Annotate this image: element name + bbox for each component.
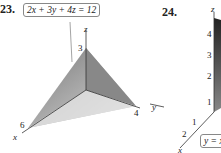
figure-23-x-intercept: 6 — [20, 120, 25, 130]
figure-23-z-intercept: 3 — [78, 43, 83, 53]
figure-24-equation: y = x — [200, 134, 221, 148]
figure-23-x-axis-label: x — [13, 132, 17, 142]
figure-24-number: 24. — [162, 5, 177, 20]
figure-23-z-axis-label: z — [84, 24, 88, 34]
figure-24-x-tick-2: 2 — [182, 129, 187, 139]
figure-23-y-intercept: 4 — [134, 108, 139, 118]
figure-23-equation: 2x + 3y + 4z = 12 — [23, 3, 100, 17]
plane-23 — [22, 22, 140, 133]
figure-24-z-tick-3: 3 — [207, 50, 212, 60]
figure-24-x-axis-label: x — [178, 145, 182, 153]
diagram-canvas — [0, 0, 221, 153]
figure-24-z-tick-4: 4 — [207, 29, 212, 39]
figure-24-z-tick-1: 1 — [207, 97, 212, 107]
figure-24-z-axis-label: z — [211, 4, 215, 14]
figure-23-number: 23. — [0, 2, 15, 17]
figure-24-x-tick-1: 1 — [192, 117, 197, 127]
figure-24-z-tick-2: 2 — [207, 71, 212, 81]
figure-24-y-axis-label: y — [152, 102, 156, 112]
